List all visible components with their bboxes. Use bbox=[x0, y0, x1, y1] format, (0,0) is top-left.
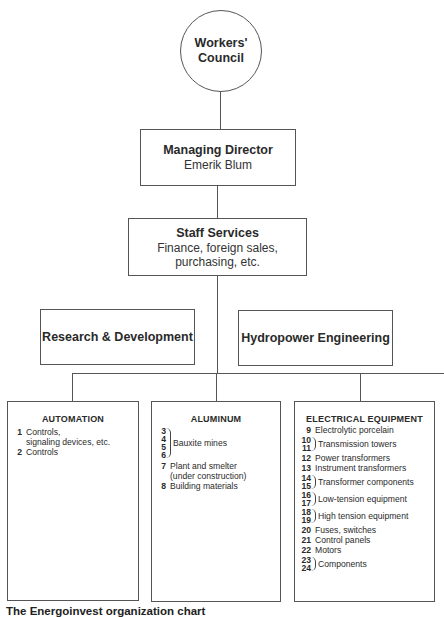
list-item: 7 Plant and smelter(under construction) bbox=[156, 461, 276, 481]
managing-director-node: Managing Director Emerik Blum bbox=[140, 129, 296, 186]
connector-staff-divisions bbox=[217, 276, 218, 374]
list-item: 21Control panels bbox=[299, 535, 430, 545]
list-item: 8 Building materials bbox=[156, 481, 276, 491]
connector-automation bbox=[72, 373, 73, 401]
staff-services-line1: Finance, foreign sales, bbox=[157, 241, 278, 255]
figure-caption: The Energoinvest organization chart bbox=[6, 605, 205, 617]
electrical-equipment-division: ELECTRICAL EQUIPMENT 9Electrolytic porce… bbox=[294, 401, 435, 602]
list-item: 12Power transformers bbox=[299, 453, 430, 463]
connector-electrical bbox=[360, 374, 361, 401]
list-item-group: 3 4 5 6 Bauxite mines bbox=[156, 427, 276, 459]
list-item: 13Instrument transformers bbox=[299, 463, 430, 473]
connector-aluminum bbox=[216, 373, 217, 401]
brace-icon bbox=[311, 475, 316, 489]
aluminum-title: ALUMINUM bbox=[156, 414, 276, 424]
list-item-group: 1617Low-tension equipment bbox=[299, 491, 430, 507]
hydropower-engineering-title: Hydropower Engineering bbox=[241, 331, 390, 346]
brace-icon bbox=[311, 509, 316, 523]
aluminum-division: ALUMINUM 3 4 5 6 Bauxite mines 7 Plant a… bbox=[151, 401, 281, 602]
automation-title: AUTOMATION bbox=[12, 414, 134, 424]
list-item-group: 1415Transformer components bbox=[299, 474, 430, 490]
workers-council-node: Workers' Council bbox=[180, 10, 262, 92]
brace-icon bbox=[311, 557, 316, 571]
list-item-group: 2324Components bbox=[299, 556, 430, 572]
brace-icon bbox=[311, 437, 316, 451]
research-development-title: Research & Development bbox=[42, 330, 193, 345]
managing-director-name: Emerik Blum bbox=[184, 158, 252, 172]
connector-director-staff bbox=[217, 186, 218, 218]
managing-director-title: Managing Director bbox=[163, 143, 273, 158]
staff-services-node: Staff Services Finance, foreign sales, p… bbox=[128, 218, 307, 276]
electrical-equipment-title: ELECTRICAL EQUIPMENT bbox=[299, 414, 430, 424]
list-item: 9Electrolytic porcelain bbox=[299, 425, 430, 435]
list-item: 2 Controls bbox=[12, 447, 134, 457]
staff-services-title: Staff Services bbox=[176, 226, 259, 241]
automation-division: AUTOMATION 1 Controls,signaling devices,… bbox=[7, 401, 139, 601]
brace-icon bbox=[311, 492, 316, 506]
list-item: 20Fuses, switches bbox=[299, 525, 430, 535]
hydropower-engineering-node: Hydropower Engineering bbox=[238, 310, 393, 366]
list-item: 22Motors bbox=[299, 545, 430, 555]
workers-council-label: Workers' Council bbox=[181, 36, 261, 66]
list-item-group: 1011Transmission towers bbox=[299, 436, 430, 452]
staff-services-line2: purchasing, etc. bbox=[175, 255, 260, 269]
brace-icon bbox=[166, 428, 171, 458]
list-item: 1 Controls,signaling devices, etc. bbox=[12, 427, 134, 447]
connector-horizontal-bus bbox=[72, 373, 444, 374]
research-development-node: Research & Development bbox=[40, 309, 195, 365]
connector-council-director bbox=[220, 92, 221, 129]
list-item-group: 1819High tension equipment bbox=[299, 508, 430, 524]
